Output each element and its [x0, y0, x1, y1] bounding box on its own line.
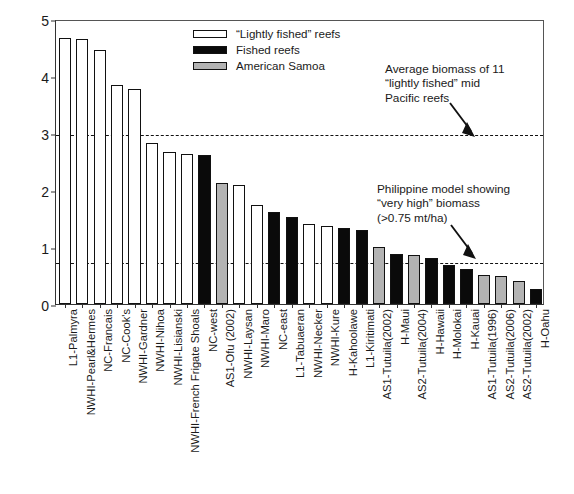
- x-tick-mark: [536, 304, 537, 308]
- bar: [373, 247, 385, 304]
- bar: [111, 85, 123, 304]
- bar: [163, 152, 175, 304]
- x-tick-label: NWHI-Nihoa: [155, 309, 166, 372]
- x-tick-mark: [135, 304, 136, 308]
- bar: [216, 183, 228, 304]
- legend-label: Fished reefs: [236, 43, 300, 56]
- x-tick-mark: [397, 304, 398, 308]
- bar: [268, 212, 280, 304]
- x-tick-mark: [309, 304, 310, 308]
- x-tick-mark: [431, 304, 432, 308]
- bar: [198, 155, 210, 304]
- legend-item: Fished reefs: [193, 42, 340, 57]
- legend-label: “Lightly fished” reefs: [236, 27, 340, 40]
- x-tick-label: H-Oahu: [540, 309, 551, 348]
- x-tick-mark: [344, 304, 345, 308]
- x-tick-mark: [379, 304, 380, 308]
- bar: [286, 217, 298, 304]
- legend-label: American Samoa: [236, 59, 325, 72]
- x-tick-mark: [239, 304, 240, 308]
- annotation-philippine-model: Philippine model showing “very high” bio…: [377, 182, 510, 225]
- x-tick-label: NC-Francais: [103, 309, 114, 372]
- x-tick-label: H-Kahoolawe: [348, 309, 359, 376]
- fish-biomass-bar-chart: Fish biomass (mt/ha) 012345 L1-PalmyraNW…: [0, 0, 574, 494]
- x-tick-label: L1-Palmyra: [68, 309, 79, 366]
- x-tick-label: NWHI-Necker: [313, 309, 324, 378]
- x-tick-mark: [327, 304, 328, 308]
- x-tick-label: NWHI-Maro: [260, 309, 271, 368]
- legend-swatch: [193, 62, 227, 70]
- x-tick-label: NC-west: [208, 309, 219, 352]
- x-tick-mark: [414, 304, 415, 308]
- chart-legend: “Lightly fished” reefsFished reefsAmeric…: [193, 26, 340, 74]
- bar: [251, 205, 263, 304]
- x-tick-mark: [292, 304, 293, 308]
- legend-item: American Samoa: [193, 58, 340, 73]
- bar: [460, 269, 472, 304]
- legend-swatch: [193, 30, 227, 38]
- bar: [478, 275, 490, 304]
- x-tick-label: NWHI-Pearl&Hermes: [86, 309, 97, 415]
- annotation-arrow-icon: [448, 222, 482, 262]
- bar: [425, 258, 437, 304]
- x-tick-label: NC-Cook's: [121, 309, 132, 363]
- x-tick-label: H-Kauai: [470, 309, 481, 349]
- bar: [408, 255, 420, 304]
- bar: [495, 276, 507, 304]
- x-tick-mark: [484, 304, 485, 308]
- x-tick-label: NWHI-French Frigate Shoals: [190, 309, 201, 453]
- annotation-arrow-icon: [447, 100, 481, 140]
- bar: [356, 230, 368, 304]
- bar: [181, 154, 193, 304]
- bar: [59, 38, 71, 304]
- x-tick-mark: [519, 304, 520, 308]
- x-tick-mark: [204, 304, 205, 308]
- x-tick-mark: [362, 304, 363, 308]
- x-tick-mark: [501, 304, 502, 308]
- x-tick-label: AS2-Tutuila(2002): [522, 309, 533, 399]
- bar: [530, 289, 542, 304]
- x-tick-mark: [449, 304, 450, 308]
- legend-swatch: [193, 46, 227, 54]
- bar: [513, 281, 525, 304]
- x-tick-mark: [65, 304, 66, 308]
- x-tick-mark: [222, 304, 223, 308]
- x-tick-label: NWHI-Gardner: [138, 309, 149, 384]
- x-tick-label: AS2-Tutuila(2004): [417, 309, 428, 399]
- bar: [128, 89, 140, 304]
- x-tick-label: L1-Kiritimati: [365, 309, 376, 368]
- x-tick-label: AS1-Tutuila(2002): [382, 309, 393, 399]
- x-tick-label: NWHI-Kure: [330, 309, 341, 366]
- x-axis-labels: L1-PalmyraNWHI-Pearl&HermesNC-FrancaisNC…: [55, 309, 544, 479]
- x-tick-mark: [257, 304, 258, 308]
- x-tick-label: AS1-Ofu (2002): [225, 309, 236, 387]
- bar: [390, 254, 402, 304]
- x-tick-mark: [170, 304, 171, 308]
- legend-item: “Lightly fished” reefs: [193, 26, 340, 41]
- x-tick-mark: [274, 304, 275, 308]
- bar: [146, 143, 158, 304]
- x-tick-label: NWHI-Laysan: [243, 309, 254, 379]
- bar: [321, 226, 333, 304]
- x-tick-mark: [82, 304, 83, 308]
- x-tick-label: NWHI-Lisianski: [173, 309, 184, 385]
- x-tick-label: AS1-Tutuila(1996): [487, 309, 498, 399]
- x-tick-label: H-Maui: [400, 309, 411, 345]
- x-tick-mark: [152, 304, 153, 308]
- annotation-average-biomass: Average biomass of 11 “lightly fished” m…: [385, 62, 505, 105]
- x-tick-mark: [117, 304, 118, 308]
- x-tick-mark: [466, 304, 467, 308]
- y-tick-mark: [51, 306, 56, 307]
- x-tick-label: H-Molokai: [452, 309, 463, 359]
- x-tick-mark: [100, 304, 101, 308]
- x-tick-label: H-Hawaii: [435, 309, 446, 354]
- x-tick-label: L1-Tabuaeran: [295, 309, 306, 378]
- x-tick-label: NC-east: [278, 309, 289, 350]
- bar: [303, 224, 315, 304]
- bar: [443, 265, 455, 304]
- x-tick-mark: [187, 304, 188, 308]
- bar: [233, 185, 245, 304]
- bar: [76, 39, 88, 304]
- x-tick-label: AS2-Tutuila(2006): [505, 309, 516, 399]
- bar: [338, 228, 350, 304]
